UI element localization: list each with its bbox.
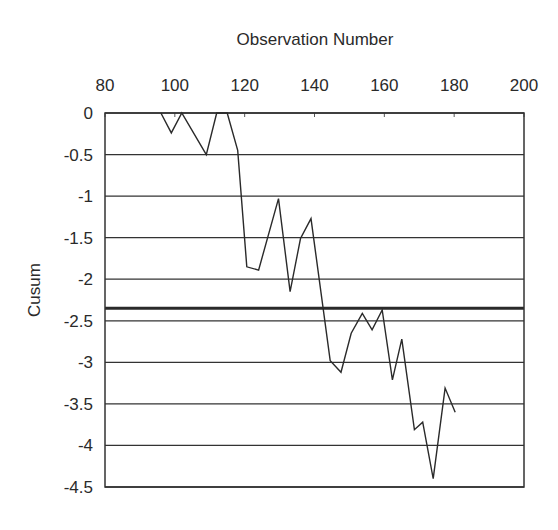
cusum-series-line xyxy=(161,113,455,479)
y-tick-label: -1 xyxy=(78,187,93,206)
y-axis-label: Cusum xyxy=(25,263,44,317)
y-tick-label: 0 xyxy=(84,104,93,123)
plot-area xyxy=(105,113,524,487)
y-tick-label: -2 xyxy=(78,270,93,289)
y-tick-label: -3 xyxy=(78,353,93,372)
cusum-chart: Observation Number 80100120140160180200 … xyxy=(0,0,558,530)
y-tick-label: -4.5 xyxy=(64,478,93,497)
x-tick-label: 100 xyxy=(161,76,189,95)
y-tick-label: -4 xyxy=(78,436,93,455)
x-tick-label: 120 xyxy=(230,76,258,95)
x-axis-label: Observation Number xyxy=(237,30,394,49)
x-tick-label: 180 xyxy=(440,76,468,95)
y-tick-label: -1.5 xyxy=(64,229,93,248)
y-axis-ticks: 0-0.5-1-1.5-2-2.5-3-3.5-4-4.5 xyxy=(64,104,93,497)
x-tick-label: 200 xyxy=(510,76,538,95)
x-tick-label: 140 xyxy=(300,76,328,95)
x-tick-label: 80 xyxy=(96,76,115,95)
y-tick-label: -2.5 xyxy=(64,312,93,331)
y-tick-label: -0.5 xyxy=(64,146,93,165)
x-tick-label: 160 xyxy=(370,76,398,95)
x-axis-ticks: 80100120140160180200 xyxy=(96,76,539,117)
y-tick-label: -3.5 xyxy=(64,395,93,414)
gridlines xyxy=(105,113,524,487)
